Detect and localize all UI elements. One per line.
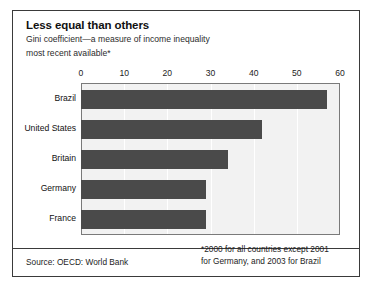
bar-row — [81, 150, 340, 169]
chart-figure: Less equal than others Gini coefficient—… — [12, 10, 360, 277]
bar-row — [81, 120, 340, 139]
chart-subtitle-line-2: most recent available* — [26, 48, 351, 60]
x-tick-50: 50 — [292, 68, 302, 78]
chart-subtitle-line-1: Gini coefficient—a measure of income ine… — [26, 34, 351, 46]
x-tick-10: 10 — [119, 68, 129, 78]
bar-rows — [81, 84, 340, 234]
footnote-line-1: *2000 for all countries except 2001 — [201, 244, 329, 256]
x-axis-tick-labels: 0102030405060 — [13, 68, 359, 81]
source-note: Source: OECD: World Bank — [26, 257, 128, 267]
footnote-line-2: for Germany, and 2003 for Brazil — [201, 256, 329, 268]
x-tick-40: 40 — [249, 68, 259, 78]
plot-area — [81, 83, 340, 235]
category-labels: BrazilUnited StatesBritainGermanyFrance — [13, 83, 81, 235]
category-label-britain: Britain — [52, 153, 76, 163]
bar-britain — [81, 150, 228, 169]
chart-title: Less equal than others — [26, 18, 351, 32]
footnote: *2000 for all countries except 2001 for … — [201, 244, 329, 267]
x-tick-0: 0 — [79, 68, 84, 78]
bar-united-states — [81, 120, 262, 139]
category-label-germany: Germany — [41, 183, 76, 193]
category-label-united-states: United States — [24, 123, 76, 133]
bar-france — [81, 210, 206, 229]
plot-wrapper: 0102030405060 BrazilUnited StatesBritain… — [13, 68, 359, 248]
bar-germany — [81, 180, 206, 199]
x-tick-20: 20 — [163, 68, 173, 78]
category-label-brazil: Brazil — [55, 93, 77, 103]
chart-header: Less equal than others Gini coefficient—… — [26, 18, 351, 59]
category-label-france: France — [49, 213, 76, 223]
bar-brazil — [81, 90, 327, 109]
x-tick-30: 30 — [206, 68, 216, 78]
x-tick-60: 60 — [335, 68, 345, 78]
bar-row — [81, 180, 340, 199]
bar-row — [81, 90, 340, 109]
bar-row — [81, 210, 340, 229]
